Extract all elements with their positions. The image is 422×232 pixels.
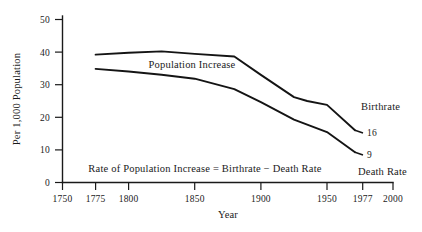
x-axis-title: Year xyxy=(218,209,238,220)
series-value-birthrate: 16 xyxy=(367,128,377,138)
x-tick-label: 1750 xyxy=(53,194,73,204)
y-axis-tick-labels: 0 10 20 30 40 50 xyxy=(40,15,50,188)
y-axis-ticks xyxy=(55,20,63,183)
x-tick-label: 1950 xyxy=(317,194,337,204)
annotation-formula: Rate of Population Increase = Birthrate … xyxy=(88,163,321,174)
series-label-death-rate: Death Rate xyxy=(358,166,407,177)
x-tick-label: 1800 xyxy=(119,194,139,204)
chart-plot-area: 0 10 20 30 40 50 1750 1775 1800 1850 190… xyxy=(0,0,422,232)
y-tick-label: 30 xyxy=(40,80,50,90)
x-tick-label: 1775 xyxy=(86,194,106,204)
x-axis-ticks xyxy=(63,183,394,191)
y-tick-label: 10 xyxy=(40,145,50,155)
x-tick-label: 2000 xyxy=(383,194,403,204)
x-tick-label: 1850 xyxy=(185,194,205,204)
y-tick-label: 20 xyxy=(40,113,50,123)
series-label-birthrate: Birthrate xyxy=(361,101,400,112)
x-tick-label: 1900 xyxy=(251,194,271,204)
y-axis-title: Per 1,000 Population xyxy=(11,52,22,145)
y-tick-label: 50 xyxy=(40,15,50,25)
x-tick-label: 1977 xyxy=(353,194,373,204)
series-line-death-rate xyxy=(96,69,355,152)
annotation-population-increase: Population Increase xyxy=(149,59,236,70)
x-axis-tick-labels: 1750 1775 1800 1850 1900 1950 1977 2000 xyxy=(53,194,403,204)
y-tick-label: 40 xyxy=(40,48,50,58)
death-rate-leader xyxy=(355,152,363,155)
series-value-death-rate: 9 xyxy=(367,150,372,160)
population-rates-chart: 0 10 20 30 40 50 1750 1775 1800 1850 190… xyxy=(0,0,422,232)
birthrate-leader xyxy=(355,130,363,133)
y-tick-label: 0 xyxy=(45,178,50,188)
